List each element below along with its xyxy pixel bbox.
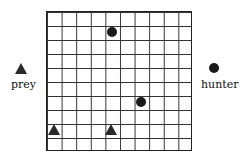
prey-legend-icon	[15, 63, 27, 74]
hunter-2	[136, 97, 146, 107]
hunter-legend-label: hunter	[201, 78, 238, 91]
prey-legend-label: prey	[11, 78, 36, 91]
prey-1	[48, 124, 60, 135]
hunter-legend-icon	[209, 63, 219, 73]
hunter-1	[107, 27, 117, 37]
prey-2	[105, 124, 117, 135]
game-grid	[46, 11, 192, 151]
